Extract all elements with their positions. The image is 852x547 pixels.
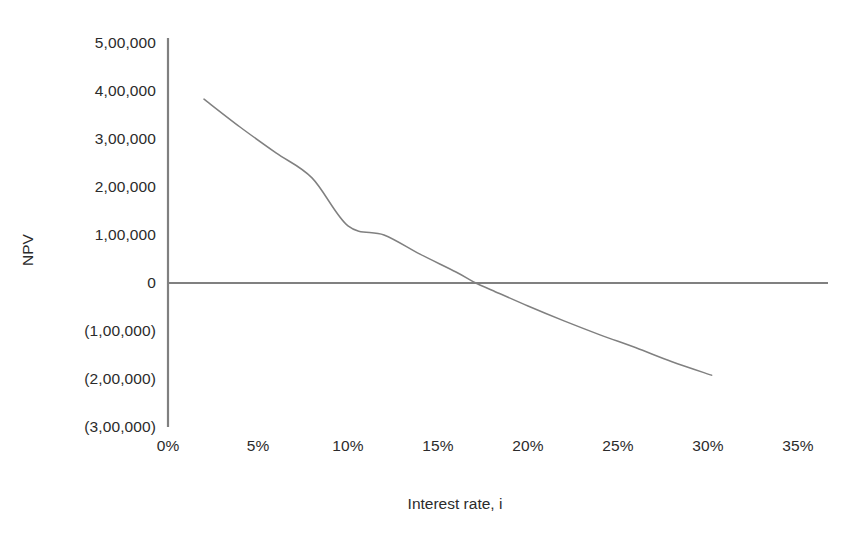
x-tick-label: 5% (247, 437, 270, 455)
y-tick-label: 2,00,000 (95, 178, 156, 196)
y-tick-label: (1,00,000) (84, 322, 156, 340)
x-tick-label: 10% (332, 437, 363, 455)
x-tick-label: 25% (602, 437, 633, 455)
x-axis-title: Interest rate, i (0, 495, 852, 513)
y-tick-label: 0 (147, 274, 156, 292)
y-tick-label: (3,00,000) (84, 418, 156, 436)
x-tick-label: 15% (422, 437, 453, 455)
y-axis-title: NPV (19, 234, 37, 266)
y-tick-label: 4,00,000 (95, 82, 156, 100)
y-tick-label: 3,00,000 (95, 130, 156, 148)
npv-vs-interest-rate-chart: NPV Interest rate, i 5,00,0004,00,0003,0… (0, 0, 852, 547)
x-tick-label: 0% (157, 437, 180, 455)
npv-curve-line (204, 99, 712, 375)
y-tick-label: 1,00,000 (95, 226, 156, 244)
x-tick-label: 30% (692, 437, 723, 455)
y-tick-label: (2,00,000) (84, 370, 156, 388)
x-tick-label: 20% (512, 437, 543, 455)
x-axis-title-text: Interest rate, i (350, 495, 503, 512)
y-tick-label: 5,00,000 (95, 34, 156, 52)
x-tick-label: 35% (782, 437, 813, 455)
